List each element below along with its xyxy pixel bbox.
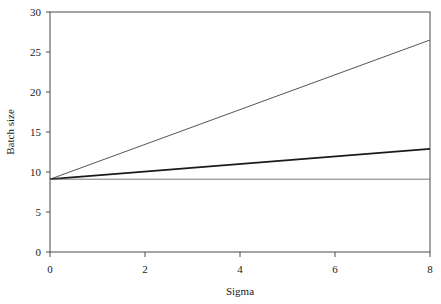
line-chart: 05101520253002468SigmaBatch size bbox=[0, 0, 441, 304]
x-axis-title: Sigma bbox=[226, 285, 254, 297]
x-axis-tick-label: 8 bbox=[427, 263, 433, 275]
x-axis-tick-label: 2 bbox=[142, 263, 148, 275]
y-axis-tick-label: 10 bbox=[30, 166, 42, 178]
y-axis-tick-label: 0 bbox=[36, 246, 42, 258]
y-axis-title: Batch size bbox=[4, 109, 16, 155]
x-axis-tick-label: 0 bbox=[47, 263, 53, 275]
y-axis-tick-label: 30 bbox=[30, 6, 42, 18]
data-line-steep bbox=[50, 40, 430, 179]
y-axis-tick-label: 20 bbox=[30, 86, 42, 98]
y-axis-tick-label: 5 bbox=[36, 206, 42, 218]
plot-frame bbox=[50, 12, 430, 252]
y-axis-tick-label: 25 bbox=[30, 46, 42, 58]
x-axis-tick-label: 4 bbox=[237, 263, 243, 275]
x-axis-tick-label: 6 bbox=[332, 263, 338, 275]
y-axis-tick-label: 15 bbox=[30, 126, 42, 138]
chart-container: 05101520253002468SigmaBatch size bbox=[0, 0, 441, 304]
data-line-middle bbox=[50, 149, 430, 179]
